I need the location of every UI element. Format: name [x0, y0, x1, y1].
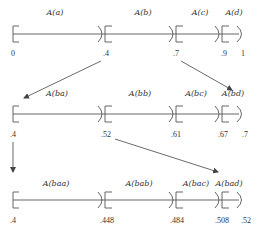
tick-label: .448: [100, 216, 114, 225]
arrow-icon: [181, 61, 232, 90]
segment-label: A(c): [191, 8, 209, 17]
interval-row-3: A(baa)A(bab)A(bac)A(bad).4.448.484.508.5…: [10, 179, 251, 225]
segment-label: A(b): [133, 8, 151, 17]
tick-label: .4: [10, 216, 16, 225]
segment-label: A(bd): [221, 89, 244, 98]
tick-label: .52: [101, 130, 111, 139]
segment-label: A(baa): [42, 179, 70, 188]
tick-label: .484: [170, 216, 184, 225]
tick-label: .61: [171, 130, 181, 139]
segment-label: A(bab): [124, 179, 152, 188]
tick-label: 1: [241, 49, 245, 58]
arrow-icon: [115, 139, 218, 172]
segment-label: A(bb): [128, 89, 151, 98]
tick-label: .508: [215, 216, 229, 225]
interval-row-2: A(ba)A(bb)A(bc)A(bd).4.52.61.67.7: [10, 89, 248, 139]
tick-label: .52: [241, 216, 251, 225]
segment-label: A(bad): [214, 179, 242, 188]
interval-row-1: A(a)A(b)A(c)A(d)0.4.7.91: [11, 8, 245, 58]
segment-label: A(ba): [45, 89, 68, 98]
tick-label: .9: [221, 49, 227, 58]
tick-label: .4: [103, 49, 109, 58]
arrows-group: [13, 61, 232, 172]
interval-subdivision-diagram: A(a)A(b)A(c)A(d)0.4.7.91A(ba)A(bb)A(bc)A…: [0, 0, 259, 229]
tick-label: .7: [242, 130, 248, 139]
tick-label: 0: [11, 49, 15, 58]
segment-label: A(bac): [182, 179, 209, 188]
segment-label: A(bc): [184, 89, 207, 98]
tick-label: .7: [173, 49, 179, 58]
segment-label: A(d): [224, 8, 242, 17]
segment-label: A(a): [46, 8, 64, 17]
tick-label: .67: [218, 130, 228, 139]
tick-label: .4: [10, 130, 16, 139]
